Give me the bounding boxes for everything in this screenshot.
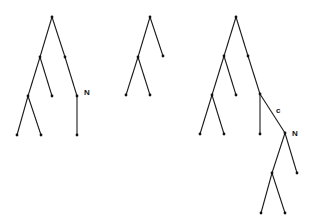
tree-node	[40, 134, 43, 137]
tree-edge	[28, 57, 40, 96]
tree-node	[296, 172, 299, 175]
tree-edge	[224, 17, 236, 56]
tree-node	[271, 172, 274, 175]
tree-edge	[272, 173, 285, 213]
tree-edge	[272, 133, 285, 173]
tree-node	[284, 212, 287, 215]
tree-edge	[212, 95, 224, 134]
node-label: N	[292, 129, 298, 138]
tree-node	[149, 16, 152, 19]
tree-diagram-canvas: NcN	[0, 0, 314, 223]
tree-node	[260, 212, 263, 215]
tree-edge	[248, 56, 260, 94]
tree-edge	[150, 17, 163, 56]
tree-edge	[212, 56, 224, 95]
tree-edge	[40, 17, 52, 57]
tree-edge	[285, 133, 297, 173]
tree-node	[76, 134, 79, 137]
tree-node	[223, 133, 226, 136]
tree-diagram: NcN	[0, 0, 314, 223]
tree-node	[223, 55, 226, 58]
tree-node	[64, 56, 67, 59]
tree-node	[162, 55, 165, 58]
tree-edge	[17, 96, 28, 135]
tree-edge	[65, 57, 77, 96]
tree-node	[247, 55, 250, 58]
tree-node	[149, 94, 152, 97]
tree-node	[199, 133, 202, 136]
tree-edge	[40, 57, 52, 96]
tree-node	[259, 133, 262, 136]
tree-node	[51, 95, 54, 98]
tree-node	[125, 94, 128, 97]
node-label: c	[276, 106, 281, 115]
tree-edge	[260, 94, 285, 133]
tree-edge	[224, 56, 236, 95]
tree-edge	[261, 173, 272, 213]
tree-edge	[52, 17, 65, 57]
tree-node	[137, 56, 140, 59]
tree-2	[125, 16, 165, 97]
tree-node	[259, 93, 262, 96]
tree-edge	[28, 96, 41, 135]
tree-edge	[138, 57, 150, 95]
tree-3: cN	[199, 16, 299, 215]
tree-node	[235, 94, 238, 97]
tree-edge	[200, 95, 212, 134]
tree-edge	[236, 17, 248, 56]
tree-node	[27, 95, 30, 98]
tree-node	[235, 16, 238, 19]
tree-edge	[138, 17, 150, 57]
tree-edge	[126, 57, 138, 95]
tree-node	[16, 134, 19, 137]
tree-node	[211, 94, 214, 97]
tree-node	[284, 132, 287, 135]
tree-node	[76, 95, 79, 98]
tree-node	[51, 16, 54, 19]
node-label: N	[84, 88, 90, 97]
tree-node	[39, 56, 42, 59]
tree-1: N	[16, 16, 90, 137]
